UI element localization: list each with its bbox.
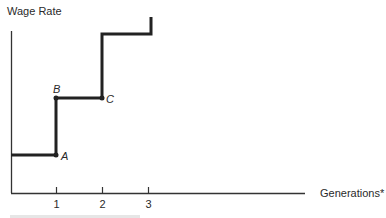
footnote-cropped: [10, 215, 140, 218]
x-tick-label-2: 2: [99, 198, 105, 210]
point-a-label: A: [60, 150, 68, 162]
wage-rate-step-line: [11, 17, 151, 155]
x-tick-label-3: 3: [145, 198, 151, 210]
x-axis-label: Generations*: [320, 187, 385, 199]
point-b-marker: [54, 96, 59, 101]
chart-canvas: 1 2 3 Wage Rate Generations* A B C: [0, 0, 386, 218]
point-c-label: C: [106, 93, 114, 105]
point-b-label: B: [53, 83, 60, 95]
y-axis-label: Wage Rate: [7, 5, 62, 17]
point-a-marker: [54, 153, 59, 158]
x-tick-label-1: 1: [53, 198, 59, 210]
point-c-marker: [100, 96, 105, 101]
